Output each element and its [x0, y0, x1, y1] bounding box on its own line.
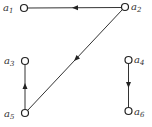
svg-text:a1: a1 — [3, 2, 13, 15]
edge-a4-a6 — [126, 64, 131, 107]
arrowhead-icon — [72, 5, 78, 10]
directed-graph: a1 a2 a3 a4 a5 a6 — [0, 0, 152, 127]
node-a5: a5 — [4, 108, 29, 121]
node-a1: a1 — [3, 2, 28, 15]
svg-text:a3: a3 — [4, 55, 15, 68]
edge-a2-a1 — [28, 5, 121, 10]
edge-a5-a3 — [23, 65, 28, 109]
svg-text:a5: a5 — [4, 108, 15, 121]
svg-text:a6: a6 — [134, 106, 145, 119]
svg-text:a4: a4 — [134, 54, 144, 67]
arrowhead-icon — [126, 82, 131, 88]
arrowhead-icon — [23, 83, 28, 89]
svg-text:a2: a2 — [131, 1, 142, 14]
node-a4: a4 — [125, 54, 144, 67]
edge-a2-a5 — [28, 10, 122, 110]
node-a6: a6 — [125, 106, 145, 119]
node-a2: a2 — [122, 1, 142, 14]
